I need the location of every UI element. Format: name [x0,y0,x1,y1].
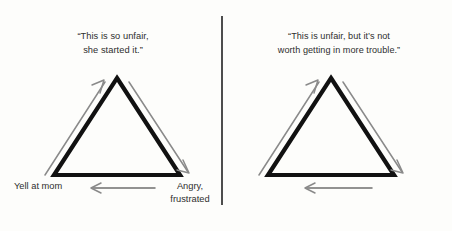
arrow-behavior-to-thought-left [45,82,105,175]
panel-divider [221,16,223,205]
feeling-node-label-left: Angry, frustrated [160,180,220,205]
arrowhead-up-right [306,80,318,93]
arrow-thought-to-feeling-left [129,82,188,172]
arrow-behavior-to-thought-right [259,82,319,175]
cognitive-triangle-panel-right: “This is unfair, but it’s not worth gett… [226,0,452,231]
triangle-outline-right [268,78,394,175]
arrow-thought-to-feeling-right [343,82,402,172]
triangle-outline-left [54,78,180,175]
triangle-artwork-right [226,0,452,231]
arrowhead-up-left [92,80,104,93]
cognitive-triangle-panel-left: “This is so unfair, she started it.” Yel… [0,0,226,231]
behavior-node-label-left: Yell at mom [14,180,62,193]
diagram-canvas: “This is so unfair, she started it.” Yel… [0,0,452,231]
